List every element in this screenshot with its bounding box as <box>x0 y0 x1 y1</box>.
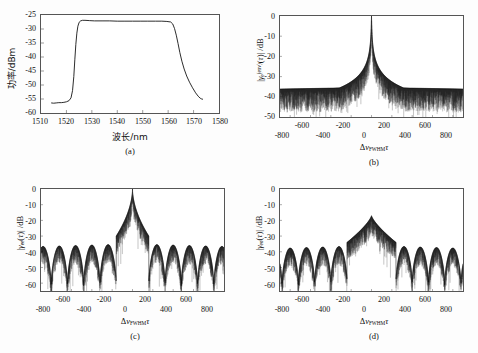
x-tick: -600 <box>49 295 77 304</box>
x-tick: -200 <box>329 121 357 130</box>
y-tick: -10 <box>253 32 275 41</box>
x-tick: 400 <box>391 305 419 314</box>
y-tick: -40 <box>253 249 275 258</box>
x-tick: 600 <box>411 295 439 304</box>
panel-c-plot-area <box>40 188 225 292</box>
y-tick: -50 <box>14 265 36 274</box>
x-tick: 0 <box>111 305 139 314</box>
y-tick: -60 <box>14 281 36 290</box>
x-tick: -600 <box>288 121 316 130</box>
panel-c-x-axis-label-text: ΔνFWHMτ <box>121 316 150 326</box>
panel-b-x-axis-label: ΔνFWHMτ <box>334 142 414 152</box>
x-tick: -600 <box>288 295 316 304</box>
y-tick: -60 <box>12 108 36 117</box>
figure-container: 功率/dBm -25 -30 -35 -40 -45 -50 -55 -60 1… <box>0 0 478 353</box>
x-tick: 600 <box>172 295 200 304</box>
panel-c-caption: (c) <box>115 331 155 341</box>
panel-a-x-axis-label: 波长/nm <box>90 130 170 143</box>
panel-d-x-axis-label: ΔνFWHMτ <box>334 316 414 326</box>
panel-b: |γe(env)(τ)| /dB 0 -10 -20 -30 -40 -50 -… <box>239 0 478 176</box>
panel-d-caption: (d) <box>354 331 394 341</box>
y-tick: -20 <box>253 217 275 226</box>
y-tick: -35 <box>12 38 36 47</box>
y-tick: -50 <box>253 112 275 121</box>
panel-c-x-axis-label: ΔνFWHMτ <box>95 316 175 326</box>
y-tick: -40 <box>253 92 275 101</box>
y-tick: -50 <box>12 80 36 89</box>
panel-b-caption: (b) <box>354 157 394 167</box>
x-tick: 800 <box>432 305 460 314</box>
panel-d-x-axis-label-text: ΔνFWHMτ <box>360 316 389 326</box>
y-tick: -25 <box>12 10 36 19</box>
y-tick: -30 <box>14 233 36 242</box>
y-tick: -30 <box>12 24 36 33</box>
x-tick: 1580 <box>204 117 236 126</box>
y-tick: -30 <box>253 233 275 242</box>
panel-d-trace-svg <box>280 189 463 291</box>
y-tick: -45 <box>12 66 36 75</box>
panel-d-plot-area <box>279 188 464 292</box>
panel-d: |γeo(τ)| /dB 0 -10 -20 -30 -40 -50 -60 -… <box>239 176 478 353</box>
x-tick: 600 <box>411 121 439 130</box>
panel-b-x-axis-label-text: ΔνFWHMτ <box>360 142 389 152</box>
y-tick: -20 <box>14 217 36 226</box>
y-tick: -30 <box>253 72 275 81</box>
panel-b-plot-area <box>279 15 464 118</box>
y-tick: -10 <box>14 201 36 210</box>
y-tick: -50 <box>253 265 275 274</box>
panel-c: |γee(τ)| /dB 0 -10 -20 -30 -40 -50 -60 -… <box>0 176 239 353</box>
y-tick: -40 <box>12 52 36 61</box>
x-tick: 400 <box>391 131 419 140</box>
x-tick: -800 <box>268 131 296 140</box>
x-tick: -800 <box>29 305 57 314</box>
x-tick: 200 <box>370 295 398 304</box>
x-tick: -400 <box>309 305 337 314</box>
x-tick: 800 <box>432 131 460 140</box>
panel-a: 功率/dBm -25 -30 -35 -40 -45 -50 -55 -60 1… <box>0 0 239 176</box>
panel-a-caption: (a) <box>110 146 150 156</box>
x-tick: 0 <box>350 131 378 140</box>
x-tick: -800 <box>268 305 296 314</box>
x-tick: -400 <box>309 131 337 140</box>
y-tick: -20 <box>253 52 275 61</box>
panel-b-trace-svg <box>280 16 463 117</box>
x-tick: -200 <box>329 295 357 304</box>
y-tick: -55 <box>12 94 36 103</box>
x-tick: 200 <box>131 295 159 304</box>
y-tick: 0 <box>14 185 36 194</box>
x-tick: -200 <box>90 295 118 304</box>
panel-a-trace-svg <box>41 15 219 113</box>
panel-c-trace-svg <box>41 189 224 291</box>
y-tick: -10 <box>253 201 275 210</box>
x-tick: -400 <box>70 305 98 314</box>
y-tick: 0 <box>253 12 275 21</box>
y-tick: -40 <box>14 249 36 258</box>
x-tick: 400 <box>152 305 180 314</box>
y-tick: 0 <box>253 185 275 194</box>
x-tick: 200 <box>370 121 398 130</box>
x-tick: 800 <box>193 305 221 314</box>
y-tick: -60 <box>253 281 275 290</box>
panel-a-plot-area <box>40 14 220 114</box>
x-tick: 0 <box>350 305 378 314</box>
